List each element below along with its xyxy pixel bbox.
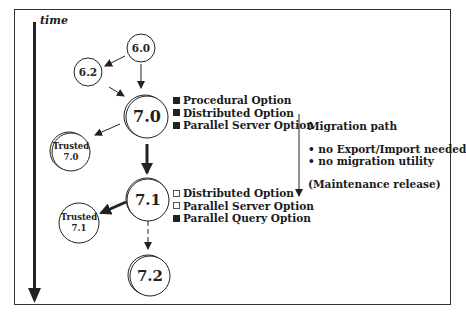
- edge-71-trusted71: [101, 202, 126, 213]
- options-7-1: Distributed Option Parallel Server Optio…: [173, 187, 314, 225]
- time-axis-arrow: [28, 22, 41, 303]
- node-6-0: 6.0: [127, 34, 155, 62]
- option-label: Parallel Query Option: [183, 212, 311, 225]
- filled-square-icon: [173, 215, 180, 222]
- migration-path-box: Migration path • no Export/Import needed…: [308, 120, 466, 190]
- option-label: Distributed Option: [183, 107, 294, 120]
- svg-text:7.0: 7.0: [64, 152, 79, 162]
- option-label: Distributed Option: [183, 187, 294, 200]
- svg-text:Trusted: Trusted: [53, 141, 89, 151]
- option-label: Parallel Server Option: [183, 119, 314, 132]
- edge-60-62: [105, 56, 125, 66]
- node-7-0: 7.0: [124, 95, 168, 138]
- svg-text:7.1: 7.1: [72, 223, 87, 233]
- svg-text:7.2: 7.2: [137, 267, 163, 285]
- node-7-2: 7.2: [128, 255, 170, 296]
- option-item: Parallel Server Option: [173, 119, 314, 132]
- empty-square-icon: [173, 190, 180, 197]
- migration-bullet: • no migration utility: [308, 155, 466, 168]
- svg-text:7.1: 7.1: [135, 191, 161, 209]
- option-label: Procedural Option: [183, 94, 291, 107]
- edge-62-70: [109, 87, 124, 96]
- node-trusted-7-0: Trusted 7.0: [50, 132, 90, 171]
- migration-note: (Maintenance release): [308, 178, 466, 191]
- time-axis-label: time: [40, 14, 68, 27]
- migration-bullet: • no Export/Import needed: [308, 143, 466, 156]
- filled-square-icon: [173, 97, 180, 104]
- svg-text:6.0: 6.0: [132, 42, 150, 54]
- filled-square-icon: [173, 122, 180, 129]
- filled-square-icon: [173, 109, 180, 116]
- option-item: Distributed Option: [173, 187, 314, 200]
- options-7-0: Procedural Option Distributed Option Par…: [173, 94, 314, 132]
- node-trusted-7-1: Trusted 7.1: [59, 203, 99, 243]
- option-item: Parallel Query Option: [173, 212, 314, 225]
- node-6-2: 6.2: [74, 58, 102, 86]
- option-item: Procedural Option: [173, 94, 314, 107]
- svg-text:Trusted: Trusted: [61, 212, 97, 222]
- node-7-1: 7.1: [126, 178, 169, 221]
- option-label: Parallel Server Option: [183, 200, 314, 213]
- svg-text:6.2: 6.2: [79, 66, 97, 78]
- option-item: Distributed Option: [173, 107, 314, 120]
- migration-title: Migration path: [308, 120, 466, 133]
- edge-70-trusted70: [95, 124, 120, 135]
- option-item: Parallel Server Option: [173, 200, 314, 213]
- empty-square-icon: [173, 202, 180, 209]
- svg-text:7.0: 7.0: [133, 107, 161, 126]
